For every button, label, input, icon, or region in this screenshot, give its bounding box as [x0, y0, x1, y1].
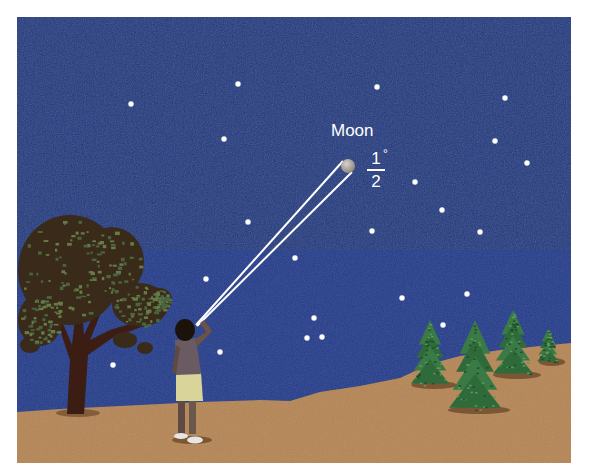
star: [502, 95, 509, 102]
star: [245, 219, 252, 226]
star: [235, 81, 242, 88]
moon-label: Moon: [331, 121, 374, 141]
star: [464, 291, 471, 298]
star: [477, 229, 484, 236]
star: [412, 179, 419, 186]
night-sky-scene: [0, 0, 590, 475]
star: [304, 335, 311, 342]
star: [369, 228, 376, 235]
star: [203, 276, 210, 283]
star: [311, 315, 318, 322]
star: [492, 138, 499, 145]
star: [128, 101, 135, 108]
star: [399, 295, 406, 302]
star: [217, 349, 224, 356]
degree-symbol: °: [383, 147, 388, 161]
star: [110, 362, 117, 369]
star: [524, 160, 531, 167]
star: [292, 255, 299, 262]
star: [221, 136, 228, 143]
star: [440, 322, 447, 329]
angle-denominator: 2: [366, 173, 386, 191]
star: [374, 84, 381, 91]
moon: [341, 159, 355, 173]
star: [319, 334, 326, 341]
fraction-bar: [367, 169, 385, 171]
star: [439, 207, 446, 214]
